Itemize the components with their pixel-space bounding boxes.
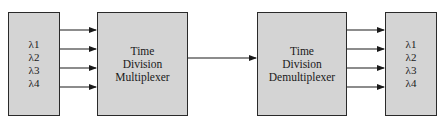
- demultiplexer-box: Time Division Demultiplexer: [257, 12, 347, 116]
- demultiplexer-label-line-1: Time: [269, 45, 335, 58]
- output-channel-2: λ2: [406, 51, 417, 64]
- multiplexer-label-line-2: Division: [115, 58, 169, 71]
- multiplexer-box: Time Division Multiplexer: [97, 12, 188, 116]
- demultiplexer-label-line-3: Demultiplexer: [269, 71, 335, 84]
- output-channel-4: λ4: [406, 77, 417, 90]
- connector-layer: [0, 0, 442, 123]
- demultiplexer-label-line-2: Division: [269, 58, 335, 71]
- output-channel-3: λ3: [406, 64, 417, 77]
- input-channel-2: λ2: [29, 51, 40, 64]
- input-channel-3: λ3: [29, 64, 40, 77]
- input-channel-4: λ4: [29, 77, 40, 90]
- input-channel-1: λ1: [29, 38, 40, 51]
- multiplexer-label-line-3: Multiplexer: [115, 71, 169, 84]
- input-channels-box: λ1 λ2 λ3 λ4: [8, 12, 60, 116]
- output-channels-box: λ1 λ2 λ3 λ4: [385, 12, 437, 116]
- output-channel-1: λ1: [406, 38, 417, 51]
- multiplexer-label-line-1: Time: [115, 45, 169, 58]
